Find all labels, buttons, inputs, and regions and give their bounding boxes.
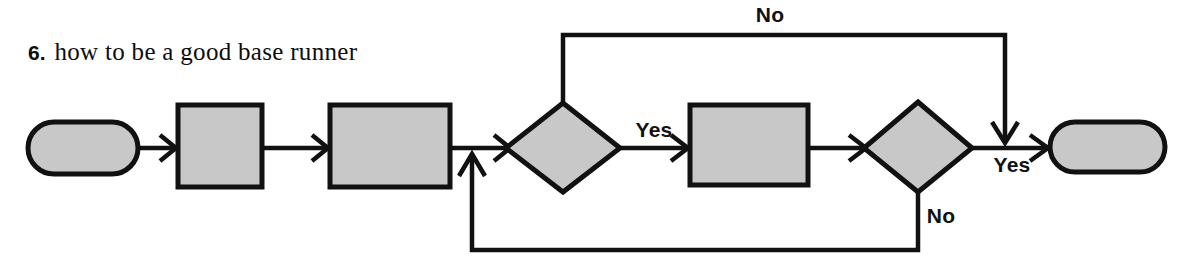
edge-label-yes-right: Yes [994,153,1031,176]
node-process-3 [690,105,808,185]
node-end-terminator [1050,122,1165,172]
node-decision-1 [506,103,620,192]
node-process-2 [330,105,450,187]
flowchart-canvas: No Yes Yes No [0,0,1185,274]
flowchart-figure: 6.how to be a good base runner [0,0,1185,274]
node-decision-2 [864,102,972,192]
edge-label-yes-mid: Yes [636,118,673,141]
node-start-terminator [28,122,138,174]
edge-label-no-bottom: No [927,204,955,227]
edge-label-no-top: No [756,3,784,26]
node-process-1 [178,105,262,187]
